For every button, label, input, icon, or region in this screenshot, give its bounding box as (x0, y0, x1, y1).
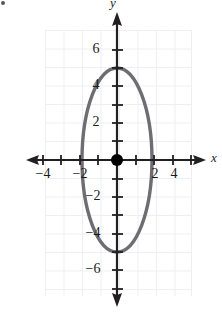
origin-point (111, 154, 123, 166)
y-tick-label--6: −6 (78, 261, 108, 277)
y-axis-label: y (110, 0, 116, 11)
x-tick-label-4: 4 (159, 166, 189, 182)
y-tick-label-4: 4 (85, 77, 107, 93)
x-tick-label--2: −2 (65, 166, 95, 182)
x-tick-label--4: −4 (28, 166, 58, 182)
x-axis-label: x (211, 150, 217, 166)
y-axis-arrow-down (112, 293, 122, 307)
y-axis-arrow-up (112, 12, 122, 26)
y-tick-label--4: −4 (78, 225, 108, 241)
graph-figure: y x −4 −2 2 4 6 4 2 −2 −4 −6 (0, 0, 222, 313)
y-tick-label-6: 6 (85, 41, 107, 57)
y-tick-label-2: 2 (85, 114, 107, 130)
coordinate-plane (0, 0, 222, 313)
y-tick-label--2: −2 (78, 188, 108, 204)
